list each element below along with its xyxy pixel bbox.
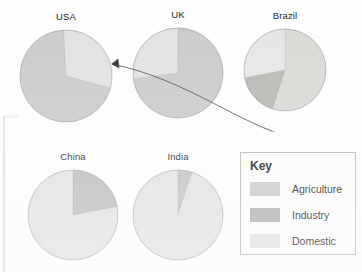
legend-label-industry: Industry (292, 209, 329, 221)
pie-svg-china (25, 167, 121, 263)
ink-tail-icon (255, 124, 274, 132)
legend-item-domestic: Domestic (250, 233, 350, 249)
pie-slice-domestic (133, 170, 223, 260)
legend-label-agriculture: Agriculture (292, 183, 342, 195)
pie-title-uk: UK (130, 9, 226, 20)
pie-title-china: China (25, 151, 121, 162)
legend-swatch-domestic (250, 234, 280, 248)
pie-slice-domestic (244, 29, 285, 78)
pie-title-brazil: Brazil (241, 10, 329, 21)
pie-svg-india (130, 167, 226, 263)
legend-item-industry: Industry (250, 207, 350, 223)
pie-slice-domestic (133, 28, 178, 79)
pie-title-india: India (130, 151, 226, 162)
pie-chart-india: India (130, 151, 226, 263)
pie-chart-usa: USA (17, 11, 115, 125)
pie-title-usa: USA (17, 11, 115, 22)
pie-chart-china: China (25, 151, 121, 263)
legend-item-agriculture: Agriculture (250, 181, 350, 197)
legend-title: Key (250, 159, 272, 173)
pie-chart-brazil: Brazil (241, 10, 329, 114)
page-edge-artifact (3, 116, 5, 272)
figure-canvas: USAUKBrazilChinaIndia Key Agriculture In… (0, 0, 362, 272)
legend-key-box: Key Agriculture Industry Domestic (240, 152, 356, 255)
pie-svg-usa (17, 27, 115, 125)
pie-svg-brazil (241, 26, 329, 114)
pie-chart-uk: UK (130, 9, 226, 121)
legend-swatch-industry (250, 208, 280, 222)
legend-label-domestic: Domestic (292, 235, 336, 247)
legend-swatch-agriculture (250, 182, 280, 196)
pie-svg-uk (130, 25, 226, 121)
